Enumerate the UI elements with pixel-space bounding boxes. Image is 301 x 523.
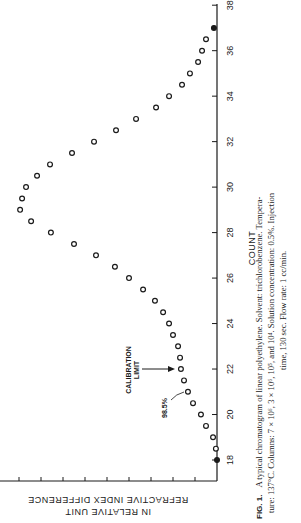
- count-tick-label: 26: [225, 273, 235, 283]
- chromatogram-figure: 1820222426283032343638 COUNT REFRACTIVE …: [0, 0, 301, 523]
- calibration-limit-annotation: CALIBRATION LIMIT: [125, 346, 175, 394]
- percent-annotation: 98.5%: [161, 392, 184, 418]
- data-point: [94, 253, 99, 258]
- data-point: [211, 435, 216, 440]
- data-point: [29, 219, 34, 224]
- data-point: [179, 367, 184, 372]
- caption-line2: ture: 137°C. Columns: 7 × 10⁶, 3 × 10⁶, …: [266, 192, 276, 513]
- percent-label: 98.5%: [161, 397, 168, 418]
- data-point: [24, 185, 29, 190]
- count-tick-label: 20: [225, 410, 235, 420]
- data-points: [18, 26, 220, 463]
- data-point: [18, 207, 23, 212]
- count-tick-label: 30: [225, 182, 235, 192]
- data-point: [188, 71, 193, 76]
- axes: [0, 4, 217, 481]
- data-point: [134, 117, 139, 122]
- data-point: [127, 276, 132, 281]
- data-point: [215, 458, 220, 463]
- data-point: [191, 401, 196, 406]
- count-tick-label: 36: [225, 46, 235, 56]
- percent-leader-line: [171, 392, 184, 400]
- data-point: [182, 378, 187, 383]
- figure-caption: FIG. 1. A typical chromatogram of linear…: [248, 192, 288, 519]
- calibration-label-line2: LIMIT: [133, 360, 140, 379]
- data-point: [48, 162, 53, 167]
- data-point: [114, 128, 119, 133]
- data-point: [72, 242, 77, 247]
- data-point: [70, 151, 75, 156]
- arrow-head-icon: [168, 366, 175, 372]
- data-point: [180, 82, 185, 87]
- data-point: [204, 37, 209, 42]
- count-tick-label: 24: [225, 319, 235, 329]
- caption-text-line1: A typical chromatogram of linear polyeth…: [254, 197, 264, 488]
- data-point: [161, 310, 166, 315]
- data-point: [20, 196, 25, 201]
- data-point: [153, 298, 158, 303]
- data-point: [196, 60, 201, 65]
- data-point: [214, 446, 219, 451]
- count-tick-label: 18: [225, 455, 235, 465]
- ri-axis-title-line2: IN RELATIVE UNIT: [65, 507, 151, 517]
- data-point: [204, 423, 209, 428]
- data-point: [141, 287, 146, 292]
- count-tick-label: 28: [225, 228, 235, 238]
- count-tick-label: 34: [225, 91, 235, 101]
- count-tick-label: 38: [225, 0, 235, 10]
- data-point: [92, 139, 97, 144]
- calibration-label-line1: CALIBRATION: [125, 346, 132, 394]
- caption-line3: time, 130 sec. Flow rate: 1 cc/min.: [278, 251, 288, 370]
- count-tick-label: 22: [225, 364, 235, 374]
- data-point: [176, 344, 181, 349]
- data-point: [199, 412, 204, 417]
- data-point: [35, 173, 40, 178]
- data-point: [171, 333, 176, 338]
- data-point: [167, 94, 172, 99]
- data-point: [200, 48, 205, 53]
- count-axis-ticks: 1820222426283032343638: [212, 0, 235, 465]
- count-tick-label: 32: [225, 137, 235, 147]
- caption-label: FIG. 1.: [255, 495, 264, 519]
- data-point: [212, 26, 217, 31]
- data-point: [113, 264, 118, 269]
- data-point: [178, 355, 183, 360]
- data-point: [49, 230, 54, 235]
- ri-axis-title-line1: REFRACTIVE INDEX DIFFERENCE: [28, 495, 189, 505]
- data-point: [167, 321, 172, 326]
- data-point: [186, 389, 191, 394]
- data-point: [154, 105, 159, 110]
